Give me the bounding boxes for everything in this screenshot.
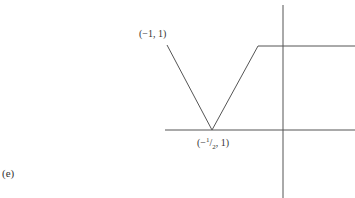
graph-canvas — [0, 0, 355, 198]
function-curve — [167, 45, 355, 130]
point-label-left: (−1, 1) — [139, 28, 166, 39]
panel-label: (e) — [2, 167, 14, 179]
label-suffix: , 1) — [216, 137, 229, 148]
label-prefix: (− — [197, 137, 206, 148]
point-label-vertex: (−1/2, 1) — [197, 136, 229, 151]
